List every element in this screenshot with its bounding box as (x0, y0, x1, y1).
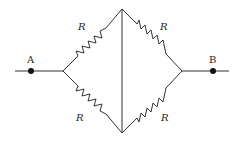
terminal-a-label: A (26, 54, 35, 65)
resistor-upper-right (122, 9, 182, 71)
circuit-diagram: A B R R R R (0, 0, 240, 145)
resistor-upper-left-label: R (77, 21, 86, 32)
terminal-b-node (210, 68, 216, 74)
terminal-a-node (28, 68, 34, 74)
resistor-lower-left-label: R (75, 112, 84, 123)
resistor-lower-right-label: R (160, 112, 169, 123)
resistor-upper-right-label: R (159, 21, 168, 32)
resistor-lower-left (63, 71, 122, 133)
resistor-upper-left (63, 9, 122, 71)
terminal-b-label: B (209, 54, 216, 65)
resistor-lower-right (122, 71, 182, 133)
